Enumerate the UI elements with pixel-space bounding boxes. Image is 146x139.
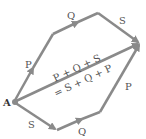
label-p-lower: P bbox=[125, 81, 132, 92]
point-a-label: A bbox=[2, 97, 11, 108]
vector-p-lower bbox=[100, 45, 139, 112]
vector-q-upper bbox=[53, 22, 78, 34]
label-q-upper: Q bbox=[67, 10, 75, 21]
label-p-upper: P bbox=[25, 59, 32, 70]
point-a-dot bbox=[12, 99, 18, 105]
vector-s-upper bbox=[98, 13, 138, 42]
label-q-lower: Q bbox=[78, 126, 86, 137]
vector-diagram: A P Q S S Q P P + Q + S = S + Q + P bbox=[0, 0, 146, 139]
label-s-upper: S bbox=[119, 15, 126, 26]
label-s-lower: S bbox=[28, 119, 35, 130]
